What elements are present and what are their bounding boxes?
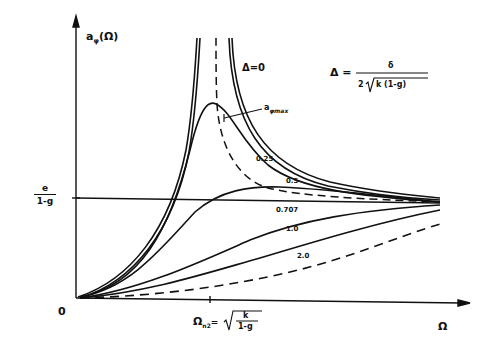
resonance-eq: = xyxy=(211,317,219,327)
delta-def-num: δ xyxy=(388,61,394,70)
label-delta-0: Δ=0 xyxy=(242,62,265,73)
label-delta-10: 1.0 xyxy=(286,225,298,233)
resonance-den: 1-g xyxy=(238,322,253,331)
curve-delta-0707 xyxy=(80,205,440,298)
label-delta-025: 0.25 xyxy=(256,155,273,163)
resonance-sub: n2 xyxy=(202,322,210,329)
amax-sub: φmax xyxy=(269,107,288,114)
y-axis-arg: (Ω) xyxy=(99,30,118,43)
label-delta-0707: 0.707 xyxy=(276,206,298,214)
asymptote-den: 1-g xyxy=(37,196,53,206)
label-amax: aφmax xyxy=(264,103,288,114)
asymptote-num: e xyxy=(42,183,48,193)
curve-delta-05 xyxy=(80,187,440,297)
response-curve-chart xyxy=(0,0,495,359)
curve-delta-0-left-a xyxy=(78,38,197,297)
label-delta-20: 2.0 xyxy=(297,252,309,260)
asymptote-label: e 1-g xyxy=(34,183,56,206)
x-axis-label: Ω xyxy=(438,320,447,333)
delta-def-den-pre: 2 xyxy=(358,80,364,89)
delta-def-den-rad: k (1-g) xyxy=(376,80,406,89)
curve-delta-10 xyxy=(80,210,440,298)
y-axis-arrow-icon xyxy=(73,16,79,27)
curves xyxy=(78,38,440,298)
resonance-num: k xyxy=(243,311,248,320)
origin-label: 0 xyxy=(58,305,66,318)
x-axis xyxy=(76,298,462,303)
delta-def-lhs: Δ = xyxy=(330,66,352,79)
label-delta-05: 0.5 xyxy=(286,177,298,185)
y-axis-label: aφ(Ω) xyxy=(86,30,118,45)
asymptote-line xyxy=(76,198,440,203)
resonance-omega: Ω xyxy=(193,315,202,328)
resonance-label: Ωn2= xyxy=(193,315,218,329)
x-axis-arrow-icon xyxy=(458,300,470,306)
